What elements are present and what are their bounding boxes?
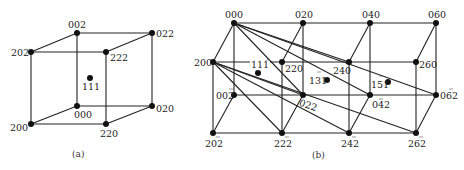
node-label-220: 220: [285, 63, 303, 74]
node-label-200: 200: [10, 122, 28, 133]
node-label-242: 242: [341, 138, 359, 149]
node-label-062: 062: [440, 90, 458, 101]
node-label-020: 020: [295, 9, 313, 20]
node-label-022: 022: [156, 28, 174, 39]
node-label-111: 111: [251, 59, 269, 70]
node-label-060: 060: [428, 9, 446, 20]
node-label-262: 262: [408, 138, 426, 149]
node-label-020: 020: [156, 103, 174, 114]
node-label-000: 000: [74, 109, 92, 120]
node-label-222: 222: [110, 52, 128, 63]
node-label-002: 002: [68, 19, 86, 30]
node-label-022: 022: [298, 97, 319, 114]
node-label-131: 131: [309, 75, 327, 86]
caption-b: (b): [312, 150, 325, 160]
node-label-222: 222: [274, 138, 292, 149]
node-label-111: 111: [82, 81, 100, 92]
panel-b-lattice: 000 020 040 060 200 220 240 260 111 131 …: [194, 9, 458, 160]
caption-a: (a): [72, 149, 84, 159]
lattice-diagram: 002 022 202 222 111 000 020 200 220 (a): [0, 0, 464, 170]
node-label-151: 151: [371, 79, 389, 90]
node-label-002: 002: [216, 90, 234, 101]
node-label-260: 260: [419, 59, 437, 70]
node-label-000: 000: [225, 9, 243, 20]
node-label-200: 200: [194, 57, 212, 68]
node-label-042: 042: [372, 99, 390, 110]
node-label-202: 202: [205, 138, 223, 149]
panel-a-cube: 002 022 202 222 111 000 020 200 220 (a): [10, 19, 174, 159]
node-label-220: 220: [100, 128, 118, 139]
node-label-240: 240: [333, 65, 351, 76]
node-label-040: 040: [362, 9, 380, 20]
node-label-202: 202: [11, 47, 29, 58]
